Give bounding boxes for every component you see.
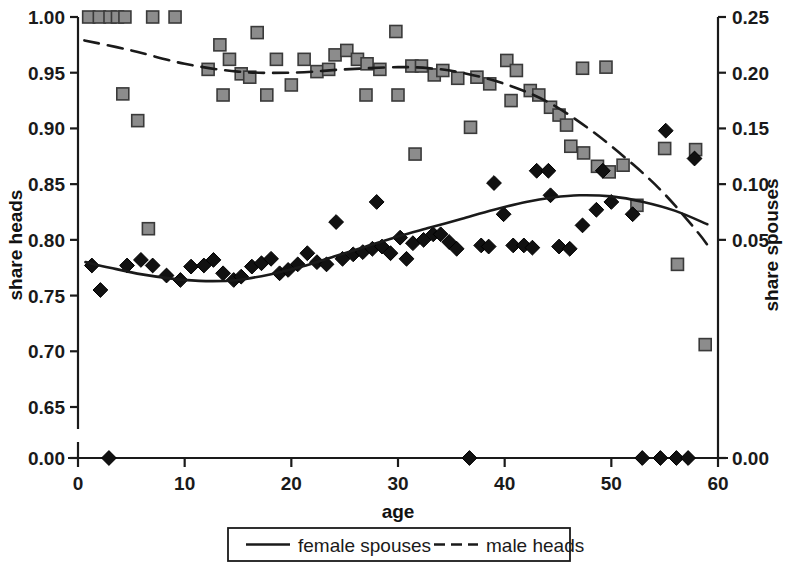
x-axis-tick-label: 30: [387, 473, 408, 494]
data-point-square: [578, 147, 590, 159]
data-point-square: [465, 121, 477, 133]
data-point-square: [374, 63, 386, 75]
data-point-square: [147, 11, 159, 23]
left-axis-tick-label: 0.90: [28, 118, 65, 139]
legend-group: female spousesmale heads: [228, 528, 584, 561]
data-point-square: [169, 11, 181, 23]
data-point-square: [617, 159, 629, 171]
left-axis-tick-label: 0.65: [28, 397, 65, 418]
left-axis-tick-label: 0.80: [28, 230, 65, 251]
left-axis-tick-label: 0.95: [28, 63, 65, 84]
data-point-square: [577, 62, 589, 74]
data-point-square: [452, 72, 464, 84]
x-axis-tick-label: 60: [707, 473, 728, 494]
right-axis-tick-label: 0.25: [732, 7, 769, 28]
x-axis-tick-label: 0: [73, 473, 84, 494]
data-point-square: [298, 53, 310, 65]
x-axis-tick-label: 10: [174, 473, 195, 494]
data-point-square: [561, 119, 573, 131]
data-point-square: [251, 27, 263, 39]
left-axis-tick-label: 0.00: [28, 448, 65, 469]
data-point-square: [360, 89, 372, 101]
x-axis-tick-label: 50: [601, 473, 622, 494]
right-axis-tick-label: 0.00: [732, 448, 769, 469]
data-point-square: [223, 53, 235, 65]
chart-figure: 1.000.950.900.850.800.750.700.650.000.25…: [0, 0, 799, 564]
data-point-square: [409, 148, 421, 160]
data-point-square: [329, 49, 341, 61]
x-axis-title: age: [382, 501, 415, 522]
left-axis-tick-label: 0.75: [28, 286, 65, 307]
data-point-square: [217, 89, 229, 101]
data-point-square: [142, 223, 154, 235]
legend-label-male-heads: male heads: [486, 535, 584, 556]
x-axis-tick-label: 40: [494, 473, 515, 494]
data-point-square: [214, 39, 226, 51]
left-axis-tick-label: 1.00: [28, 7, 65, 28]
data-point-square: [510, 64, 522, 76]
data-point-square: [671, 258, 683, 270]
data-point-square: [261, 89, 273, 101]
data-point-square: [390, 25, 402, 37]
left-axis-tick-label: 0.70: [28, 341, 65, 362]
data-point-square: [119, 11, 131, 23]
data-point-square: [270, 53, 282, 65]
data-point-square: [699, 339, 711, 351]
data-point-square: [392, 89, 404, 101]
left-axis-title: share heads: [5, 190, 26, 301]
right-axis-tick-label: 0.20: [732, 63, 769, 84]
data-point-square: [659, 142, 671, 154]
right-axis-tick-label: 0.15: [732, 118, 769, 139]
right-axis-title: share spouses: [761, 178, 782, 311]
left-axis-tick-label: 0.85: [28, 174, 65, 195]
data-point-square: [285, 79, 297, 91]
data-point-square: [600, 61, 612, 73]
data-point-square: [132, 115, 144, 127]
data-point-square: [565, 140, 577, 152]
data-point-square: [505, 95, 517, 107]
scatter-plot-svg: 1.000.950.900.850.800.750.700.650.000.25…: [0, 0, 799, 564]
x-axis-tick-label: 20: [281, 473, 302, 494]
data-point-square: [117, 88, 129, 100]
legend-label-female-spouses: female spouses: [298, 535, 431, 556]
data-point-square: [415, 60, 427, 72]
